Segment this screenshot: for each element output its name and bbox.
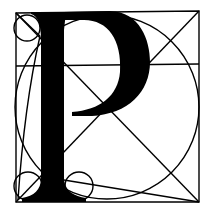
letter-p-construction-diagram	[0, 0, 215, 217]
